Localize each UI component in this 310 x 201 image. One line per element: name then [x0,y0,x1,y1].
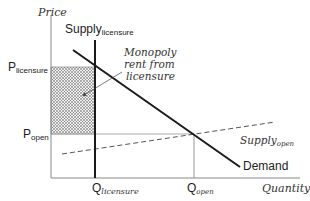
supply-open-label: Supplyopen [240,134,295,148]
economics-diagram: Price Quantity Supplylicensure Plicensur… [0,0,310,201]
p-licensure-label: Plicensure [8,60,49,75]
monopoly-rent-region [51,67,95,134]
y-axis-label: Price [37,6,67,19]
demand-label: Demand [243,159,288,173]
q-licensure-label: Qlicensure [92,181,139,196]
q-open-label: Qopen [187,181,214,196]
p-open-label: Popen [23,127,49,142]
x-axis-label: Quantity [262,182,310,195]
supply-licensure-label: Supplylicensure [65,22,134,37]
monopoly-rent-annotation: Monopoly rent from licensure [123,46,180,82]
